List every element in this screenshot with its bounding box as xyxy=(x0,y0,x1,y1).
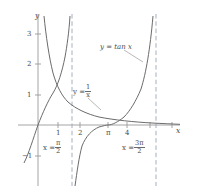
tan-function-label: y = tan x xyxy=(100,44,132,51)
x-tick-label-4: 4 xyxy=(125,130,129,137)
y-tick-label-2: 2 xyxy=(27,61,31,68)
tan-label-leader xyxy=(124,50,143,62)
tan-curve-branch-middle xyxy=(75,16,153,186)
x-tick-label-2: 2 xyxy=(78,130,82,137)
reciprocal-curve xyxy=(44,16,180,124)
reciprocal-label-leader xyxy=(88,98,101,110)
reciprocal-fraction: 1 x xyxy=(85,84,91,99)
asymptote-left-lhs: x = xyxy=(43,144,55,152)
asymptote-right-label: x = 3π 2 xyxy=(122,140,145,155)
figure-container: y x 1 2 π 4 3 2 1 −1 y = tan x y = 1 x x… xyxy=(0,0,197,193)
asymptote-left-denominator: 2 xyxy=(55,148,61,155)
asymptote-right-lhs: x = xyxy=(122,144,134,152)
asymptote-left-fraction: π 2 xyxy=(55,140,61,155)
x-axis-label: x xyxy=(176,127,180,135)
asymptote-left-label: x = π 2 xyxy=(43,140,61,155)
y-tick-label-1: 1 xyxy=(27,92,31,99)
reciprocal-function-label: y = 1 x xyxy=(73,84,91,99)
reciprocal-label-lhs: y = xyxy=(73,88,85,96)
x-tick-label-pi: π xyxy=(106,130,111,137)
y-tick-label-neg1: −1 xyxy=(22,153,32,160)
x-tick-label-1: 1 xyxy=(56,130,60,137)
y-axis-label: y xyxy=(35,12,39,20)
reciprocal-denominator: x xyxy=(85,92,91,99)
y-tick-label-3: 3 xyxy=(27,31,31,38)
asymptote-right-fraction: 3π 2 xyxy=(134,140,145,155)
asymptote-right-denominator: 2 xyxy=(134,148,145,155)
